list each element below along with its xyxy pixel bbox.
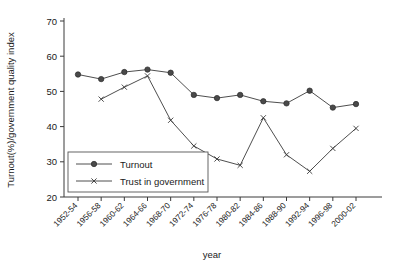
data-point-marker: [307, 88, 312, 93]
y-tick-label: 40: [46, 121, 57, 132]
line-chart: Turnout(%)/government quality index year…: [0, 0, 394, 267]
data-point-marker: [261, 99, 266, 104]
data-point-marker: [284, 101, 289, 106]
data-point-marker: [122, 69, 127, 74]
x-axis-title: year: [203, 249, 221, 260]
data-point-marker: [330, 105, 335, 110]
legend-label-turnout: Turnout: [120, 159, 153, 170]
y-tick-label: 70: [46, 16, 57, 27]
data-point-marker: [237, 92, 242, 97]
data-point-marker: [91, 161, 96, 166]
y-tick-label: 60: [46, 51, 57, 62]
data-point-marker: [214, 95, 219, 100]
data-point-marker: [191, 92, 196, 97]
y-tick-label: 30: [46, 156, 57, 167]
data-point-marker: [98, 76, 103, 81]
data-point-marker: [168, 70, 173, 75]
chart-container: Turnout(%)/government quality index year…: [0, 0, 394, 267]
data-point-marker: [145, 67, 150, 72]
chart-legend: TurnoutTrust in government: [68, 152, 208, 192]
y-tick-label: 20: [46, 192, 57, 203]
data-point-marker: [353, 101, 358, 106]
data-point-marker: [75, 72, 80, 77]
y-axis-title: Turnout(%)/government quality index: [5, 32, 16, 188]
legend-label-trust-in-government: Trust in government: [120, 176, 204, 187]
y-tick-label: 50: [46, 86, 57, 97]
